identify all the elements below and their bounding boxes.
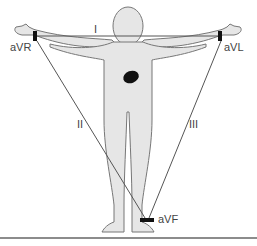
electrode-left-leg xyxy=(140,218,154,222)
label-aVL: aVL xyxy=(224,42,244,53)
human-figure xyxy=(15,7,241,232)
label-aVF: aVF xyxy=(158,214,178,225)
electrode-right-arm xyxy=(33,31,37,41)
figure-svg xyxy=(0,0,257,246)
einthoven-diagram: I aVR aVL II III aVF xyxy=(0,0,257,246)
electrode-left-arm xyxy=(218,31,222,41)
head xyxy=(113,7,143,45)
label-lead-III: III xyxy=(189,119,198,130)
label-lead-II: II xyxy=(77,119,83,130)
lead-III-line xyxy=(149,41,221,218)
label-lead-I: I xyxy=(94,24,97,35)
label-aVR: aVR xyxy=(10,42,31,53)
